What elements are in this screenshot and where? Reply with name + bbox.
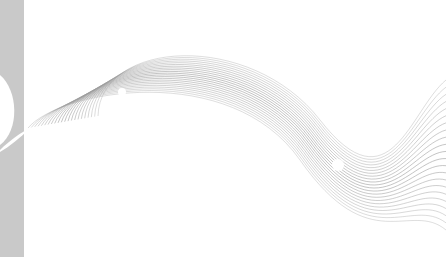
wave-lines-graphic — [0, 0, 446, 257]
wave-lines — [28, 56, 446, 230]
crescent-shape — [0, 75, 14, 145]
